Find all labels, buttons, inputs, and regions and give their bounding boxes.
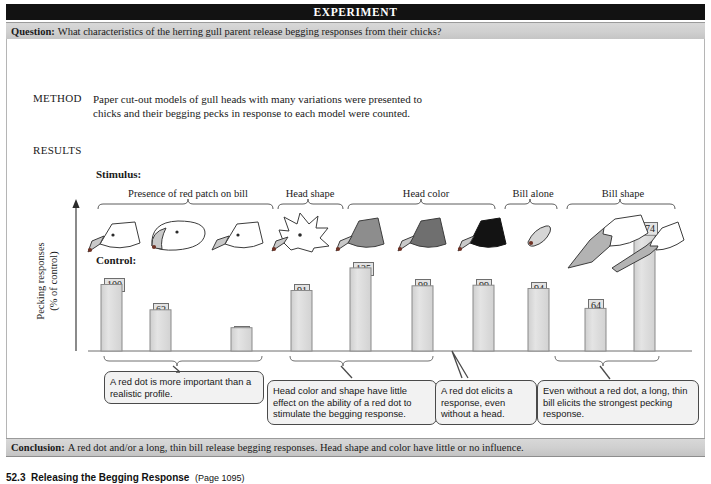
- group-label-red-patch: Presence of red patch on bill: [107, 188, 269, 199]
- control-label: Control:: [96, 254, 136, 266]
- bar-value-1: 62: [153, 303, 169, 317]
- bar-value-5: 98: [415, 279, 431, 293]
- figure-number: 52.3: [6, 472, 25, 483]
- conclusion-band: Conclusion: A red dot and/or a long, thi…: [6, 438, 705, 457]
- bar-value-7: 94: [531, 282, 547, 296]
- method-text: Paper cut-out models of gull heads with …: [93, 92, 428, 120]
- group-label-head-color: Head color: [352, 188, 500, 199]
- group-label-bill-shape: Bill shape: [572, 188, 674, 199]
- callout-2: A red dot elicits a response, even witho…: [435, 380, 537, 425]
- method-label: METHOD: [33, 92, 82, 104]
- figure-footer: 52.3 Releasing the Begging Response (Pag…: [6, 472, 245, 483]
- experiment-banner-title: EXPERIMENT: [314, 6, 398, 18]
- group-label-bill-alone: Bill alone: [503, 188, 563, 199]
- results-label: RESULTS: [33, 144, 82, 156]
- conclusion-text: A red dot and/or a long, thin bill relea…: [68, 442, 524, 453]
- figure-title: Releasing the Begging Response: [31, 472, 189, 483]
- callout-1: Head color and shape have little effect …: [267, 380, 437, 425]
- question-label: Question:: [11, 26, 55, 37]
- bar-value-9: 174: [637, 222, 658, 236]
- y-axis-label-line2: (% of control): [47, 226, 60, 336]
- question-text: What characteristics of the herring gull…: [58, 26, 442, 37]
- bar-value-8: 64: [588, 299, 604, 313]
- conclusion-label: Conclusion:: [11, 442, 65, 453]
- bar-value-3: 91: [294, 284, 310, 298]
- experiment-banner: EXPERIMENT: [6, 4, 705, 20]
- bar-value-2: 35: [234, 326, 250, 340]
- stimulus-label: Stimulus:: [96, 168, 141, 180]
- y-axis-label: Pecking responses (% of control): [34, 226, 60, 336]
- figure-page: (Page 1095): [195, 473, 245, 483]
- bar-value-0: 100: [104, 278, 125, 292]
- y-axis-label-line1: Pecking responses: [34, 226, 47, 336]
- callout-3: Even without a red dot, a long, thin bil…: [537, 380, 699, 425]
- bar-value-6: 99: [476, 279, 492, 293]
- callout-0: A red dot is more important than a reali…: [104, 371, 264, 404]
- group-label-head-shape: Head shape: [272, 188, 348, 199]
- bar-value-4: 125: [353, 262, 374, 276]
